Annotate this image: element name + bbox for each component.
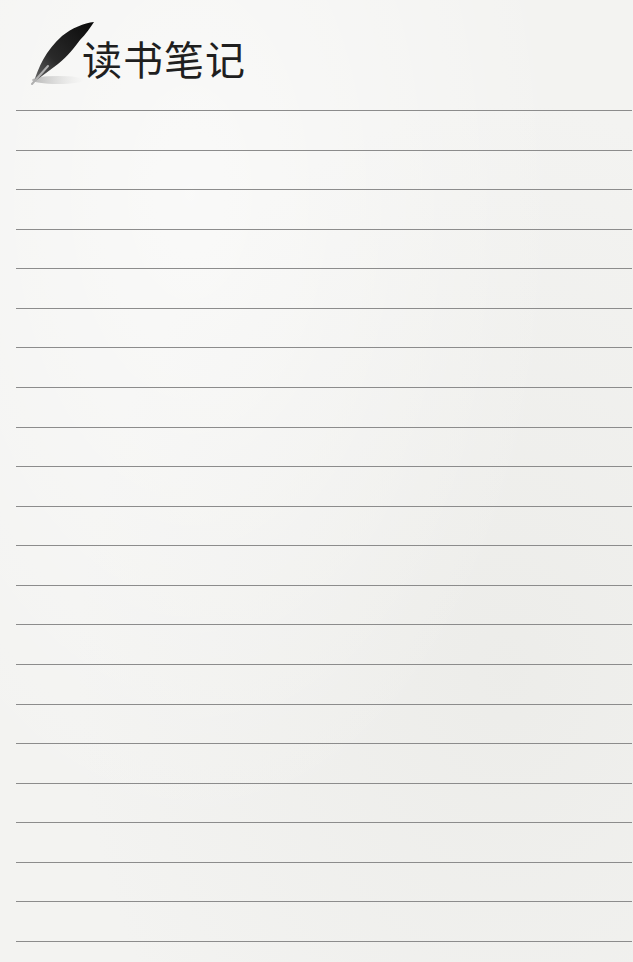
writing-line xyxy=(16,506,632,507)
writing-line xyxy=(16,862,632,863)
writing-line xyxy=(16,545,632,546)
writing-line xyxy=(16,189,632,190)
writing-line xyxy=(16,268,632,269)
writing-line xyxy=(16,466,632,467)
writing-line xyxy=(16,387,632,388)
notebook-page: 读书笔记 xyxy=(0,0,633,962)
writing-line xyxy=(16,941,632,942)
writing-line xyxy=(16,624,632,625)
writing-line xyxy=(16,743,632,744)
writing-line xyxy=(16,585,632,586)
writing-line xyxy=(16,783,632,784)
writing-line xyxy=(16,150,632,151)
writing-line xyxy=(16,347,632,348)
writing-line xyxy=(16,229,632,230)
writing-line xyxy=(16,704,632,705)
writing-line xyxy=(16,110,632,111)
writing-line xyxy=(16,901,632,902)
ruled-lines xyxy=(0,0,633,962)
writing-line xyxy=(16,664,632,665)
writing-line xyxy=(16,822,632,823)
writing-line xyxy=(16,427,632,428)
writing-line xyxy=(16,308,632,309)
